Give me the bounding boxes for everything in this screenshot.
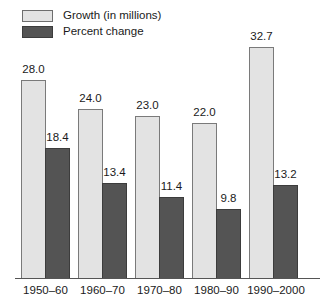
x-axis-label-1950-60: 1950–60: [16, 284, 75, 296]
x-axis-label-1960-70: 1960–70: [73, 284, 132, 296]
x-axis-label-1970-80: 1970–80: [130, 284, 189, 296]
value-label-growth-1970-80: 23.0: [124, 99, 171, 111]
value-label-growth-1960-70: 24.0: [67, 92, 114, 104]
value-label-percent-1980-90: 9.8: [205, 192, 252, 204]
value-label-percent-1990-2000: 13.2: [262, 168, 309, 180]
bar-percent-1970-80: [159, 197, 184, 279]
value-label-growth-1950-60: 28.0: [10, 63, 57, 75]
value-label-growth-1980-90: 22.0: [181, 106, 228, 118]
value-label-percent-1970-80: 11.4: [148, 180, 195, 192]
x-axis-label-1990-2000: 1990–2000: [241, 284, 311, 296]
bar-percent-1990-2000: [273, 185, 298, 279]
bar-growth-1950-60: [21, 80, 46, 279]
bar-percent-1980-90: [216, 209, 241, 279]
x-axis-line: [15, 278, 320, 279]
value-label-percent-1950-60: 18.4: [34, 131, 81, 143]
x-axis-label-1980-90: 1980–90: [187, 284, 246, 296]
bar-growth-1990-2000: [249, 47, 274, 279]
plot-area: 28.0 18.4 24.0 13.4 23.0 11.4 22.0 9.8 3…: [0, 0, 326, 305]
bar-chart: Growth (in millions) Percent change 28.0…: [0, 0, 326, 305]
bar-percent-1960-70: [102, 183, 127, 279]
value-label-growth-1990-2000: 32.7: [238, 30, 285, 42]
bar-percent-1950-60: [45, 148, 70, 279]
bar-growth-1970-80: [135, 116, 160, 279]
value-label-percent-1960-70: 13.4: [91, 166, 138, 178]
bar-growth-1960-70: [78, 109, 103, 279]
